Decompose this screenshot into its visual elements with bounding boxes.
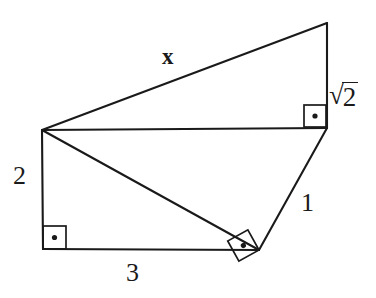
segment-three-line [43,249,259,250]
segment-diagonal-line [42,130,259,250]
sqrt-radicand-value: 2 [342,82,359,111]
label-right-side-1: 1 [301,190,314,216]
geometry-figure: x √2 2 3 1 [0,0,376,298]
label-left-side-2: 2 [13,163,26,189]
segment-x-line [42,23,327,130]
segment-horizontal-line [42,128,327,130]
label-bottom-side-3: 3 [126,260,139,286]
geometry-canvas [0,0,376,298]
sqrt-expression: √2 [329,82,358,111]
segment-one-line [259,128,327,250]
right-angle-dot [52,235,57,240]
right-angle-dot [312,113,317,118]
label-hypotenuse-x: x [162,45,174,68]
label-sqrt-two: √2 [329,82,358,111]
right-angle-bottom-left-marker [43,226,66,249]
right-angle-upper-right-marker [304,105,326,127]
